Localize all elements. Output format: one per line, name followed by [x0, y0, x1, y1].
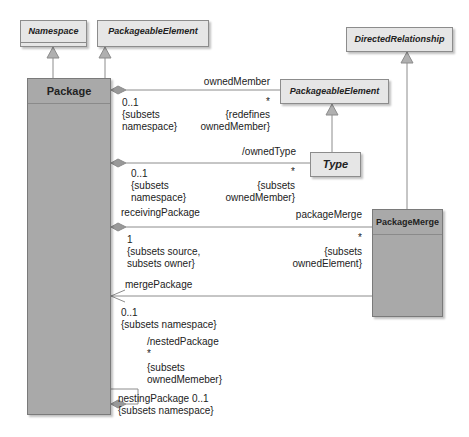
role-owned-type: /ownedType	[220, 146, 296, 158]
mult-package-merge-source: 1	[127, 234, 133, 246]
class-name: PackageableElement	[281, 86, 388, 96]
role-owned-member: ownedMember	[190, 76, 270, 88]
constraint-package-merge-source: {subsets source, subsets owner}	[127, 246, 200, 270]
composition-diamond-icon	[111, 86, 126, 94]
role-package-merge: packageMerge	[270, 209, 362, 221]
class-name: PackageMerge	[373, 217, 442, 227]
class-type[interactable]: Type	[310, 152, 361, 177]
composition-diamond-icon	[111, 159, 126, 167]
class-divider	[28, 103, 110, 104]
generalization-arrowhead-icon	[47, 47, 59, 58]
class-name: Namespace	[21, 26, 86, 36]
class-name: Package	[28, 85, 110, 97]
mult-owned-member-target: *	[250, 96, 270, 108]
generalization-arrowhead-icon	[99, 47, 111, 58]
class-name: DirectedRelationship	[347, 34, 452, 44]
mult-owned-type-target: *	[275, 166, 295, 178]
class-name: PackageableElement	[98, 26, 208, 36]
constraint-owned-member-target: {redefines ownedMember}	[180, 109, 270, 133]
class-packageable-element-right[interactable]: PackageableElement	[280, 79, 389, 104]
mult-owned-member-source: 0..1	[122, 97, 139, 109]
constraint-package-merge-target: {subsets ownedElement}	[272, 246, 362, 270]
class-name: Type	[311, 158, 360, 170]
class-namespace[interactable]: Namespace	[20, 20, 87, 47]
role-receiving-package: receivingPackage	[121, 207, 200, 219]
class-divider	[373, 234, 442, 235]
generalization-arrowhead-icon	[326, 104, 338, 115]
class-package[interactable]: Package	[27, 78, 111, 415]
class-package-merge[interactable]: PackageMerge	[372, 209, 443, 317]
mult-owned-type-source: 0..1	[131, 168, 148, 180]
role-nested-package: /nestedPackage	[147, 336, 219, 348]
mult-merge-package: 0..1	[121, 307, 138, 319]
class-packageable-element-top[interactable]: PackageableElement	[97, 20, 209, 47]
mult-nested-package: *	[147, 348, 151, 360]
generalization-arrowhead-icon	[401, 52, 413, 63]
constraint-nesting-package: {subsets namespace}	[118, 405, 214, 417]
composition-diamond-icon	[111, 223, 126, 231]
class-directed-relationship[interactable]: DirectedRelationship	[346, 27, 453, 52]
constraint-owned-member-source: {subsets namespace}	[122, 109, 177, 133]
constraint-nested-package: {subsets ownedMemeber}	[147, 362, 222, 386]
mult-package-merge-target: *	[345, 232, 362, 244]
constraint-owned-type-target: {subsets ownedMember}	[205, 180, 295, 204]
role-merge-package: mergePackage	[125, 279, 192, 291]
constraint-merge-package: {subsets namespace}	[121, 319, 217, 331]
constraint-owned-type-source: {subsets namespace}	[131, 180, 186, 204]
class-divider	[21, 42, 86, 43]
role-nesting-package: nestingPackage 0..1	[118, 393, 209, 405]
